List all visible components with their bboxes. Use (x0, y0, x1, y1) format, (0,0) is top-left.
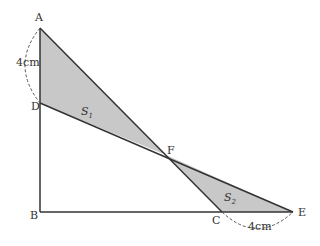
label-d: D (31, 100, 40, 113)
measure-ce: 4cm (248, 220, 272, 233)
segment-de (40, 103, 293, 212)
label-a: A (34, 11, 44, 24)
geometry-diagram: A D B C E F S1 S2 4cm 4cm (0, 0, 320, 246)
label-f: F (167, 144, 175, 157)
measure-ad: 4cm (16, 56, 40, 69)
label-c: C (212, 214, 220, 227)
label-e: E (298, 206, 306, 219)
label-b: B (30, 209, 38, 222)
segment-ac (40, 28, 222, 212)
